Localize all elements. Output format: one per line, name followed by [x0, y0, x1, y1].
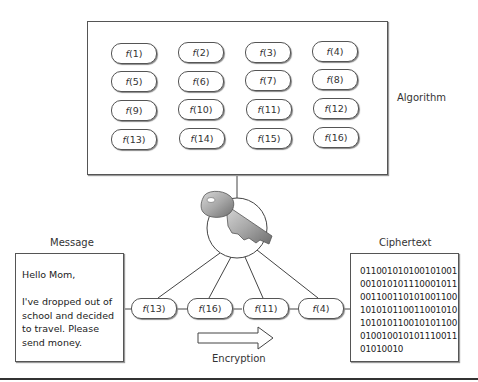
cipher-line: 010010010101110011 [360, 330, 457, 343]
encryption-label: Encryption [212, 353, 266, 364]
cipher-line: 101010110010101100 [360, 317, 457, 330]
ciphertext-text: 011001010100101001 001010101110001011 00… [360, 265, 457, 356]
function-pill: f(6) [178, 71, 224, 92]
message-line: to travel. Please [22, 322, 114, 336]
function-pill: f(4) [312, 41, 358, 62]
function-pill: f(7) [245, 70, 291, 91]
function-pill: f(16) [313, 127, 359, 148]
message-text: Hello Mom, I've dropped out of school an… [22, 268, 114, 349]
function-pill: f(13) [111, 129, 157, 150]
ciphertext-label: Ciphertext [379, 237, 431, 248]
function-pill: f(11) [246, 99, 292, 120]
cipher-line: 01010010 [360, 343, 457, 356]
message-line-blank [22, 282, 114, 296]
message-label: Message [50, 237, 94, 248]
function-pill: f(3) [245, 42, 291, 63]
cipher-line: 001100110101001100 [360, 291, 457, 304]
function-pill: f(12) [313, 98, 359, 119]
message-line: Hello Mom, [22, 268, 114, 282]
algorithm-label: Algorithm [397, 92, 446, 103]
chain-pill: f(11) [243, 298, 289, 319]
cipher-line: 101010110011001010 [360, 304, 457, 317]
function-pill: f(9) [111, 100, 157, 121]
function-pill: f(5) [111, 71, 157, 92]
chain-pill: f(16) [187, 298, 233, 319]
chain-pill: f(4) [298, 298, 344, 319]
function-pill: f(8) [312, 69, 358, 90]
function-pill: f(15) [246, 128, 292, 149]
message-line: I've dropped out of [22, 295, 114, 309]
message-line: school and decided [22, 309, 114, 323]
function-pill: f(1) [111, 43, 157, 64]
cipher-line: 001010101110001011 [360, 278, 457, 291]
function-pill: f(10) [178, 99, 224, 120]
function-pill: f(14) [179, 128, 225, 149]
chain-pill: f(13) [131, 298, 177, 319]
right-arrow-icon [198, 327, 273, 349]
message-line: send money. [22, 336, 114, 350]
function-pill: f(2) [178, 42, 224, 63]
cipher-line: 011001010100101001 [360, 265, 457, 278]
